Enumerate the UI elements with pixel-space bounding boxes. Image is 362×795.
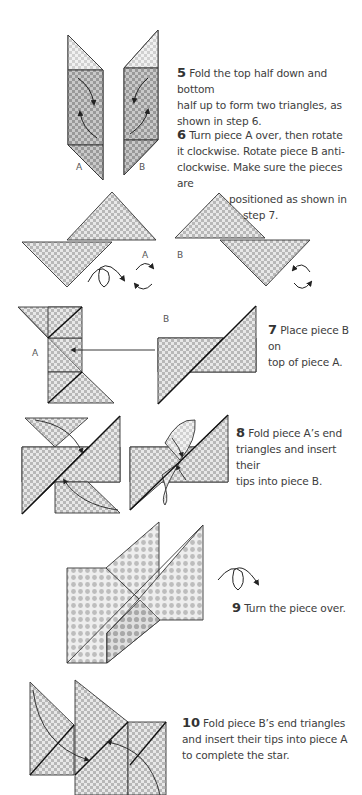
piece-a-label: A bbox=[76, 162, 82, 172]
step-number: 5 bbox=[177, 65, 186, 80]
piece-b-label: B bbox=[139, 162, 145, 172]
step-number: 6 bbox=[177, 127, 186, 142]
piece-b-label: B bbox=[177, 250, 183, 260]
step-7-diagram bbox=[18, 306, 256, 404]
rotate-anticlockwise-icon bbox=[293, 265, 311, 288]
step-number: 10 bbox=[182, 715, 200, 730]
step-6-text: 6 Turn piece A over, then rotate it cloc… bbox=[177, 127, 362, 223]
step-number: 7 bbox=[268, 322, 277, 337]
step-10-text: 10 Fold piece B’s end triangles and inse… bbox=[182, 715, 362, 763]
turn-over-icon bbox=[88, 266, 124, 287]
piece-a-label: A bbox=[32, 348, 38, 358]
step-10-diagram bbox=[30, 680, 166, 795]
step-number: 9 bbox=[232, 600, 241, 615]
piece-a-label: A bbox=[142, 250, 148, 260]
rotate-clockwise-icon bbox=[135, 263, 153, 289]
step-number: 8 bbox=[236, 425, 245, 440]
step-5-diagram bbox=[68, 30, 158, 180]
step-9-diagram bbox=[67, 522, 258, 663]
step-5-text: 5 Fold the top half down and bottom half… bbox=[177, 65, 362, 129]
step-8-diagram bbox=[22, 415, 228, 514]
step-7-text: 7 Place piece B on top of piece A. bbox=[268, 322, 362, 370]
piece-b-label: B bbox=[163, 314, 169, 324]
step-8-text: 8 Fold piece A’s end triangles and inser… bbox=[236, 425, 362, 489]
step-9-text: 9 Turn the piece over. bbox=[232, 600, 362, 616]
turn-over-icon bbox=[218, 568, 258, 590]
